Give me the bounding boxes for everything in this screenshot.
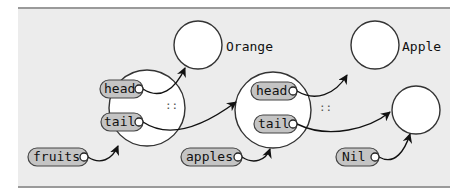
cell-1-tail-label: tail [104, 115, 135, 129]
apple-node [351, 21, 399, 69]
nil-label: Nil [342, 150, 365, 164]
arrow-nil-to-nilnode [379, 134, 410, 160]
cell-2-cons-operator: :: [319, 101, 332, 115]
fruits-dot [80, 153, 88, 161]
cell-2-head-dot [289, 87, 297, 95]
cell-1-cons-operator: :: [165, 99, 178, 113]
cell-2-tail-label: tail [258, 117, 289, 131]
cell-2-head-label: head [256, 84, 287, 98]
arrow-apples-to-cell2 [242, 149, 270, 161]
apples-dot [234, 153, 242, 161]
fruits-label: fruits [33, 150, 80, 164]
cell-1-head-label: head [104, 82, 135, 96]
orange-node [174, 21, 222, 69]
apple-label: Apple [402, 40, 441, 54]
cell-2-tail-dot [289, 120, 297, 128]
orange-label: Orange [226, 40, 273, 54]
cell-1-tail-dot [135, 118, 143, 126]
nil-dot [371, 153, 379, 161]
apples-label: apples [186, 150, 233, 164]
cell-1-head-dot [135, 85, 143, 93]
nil-node [392, 86, 440, 134]
arrow-fruits-to-cell1 [88, 146, 118, 161]
